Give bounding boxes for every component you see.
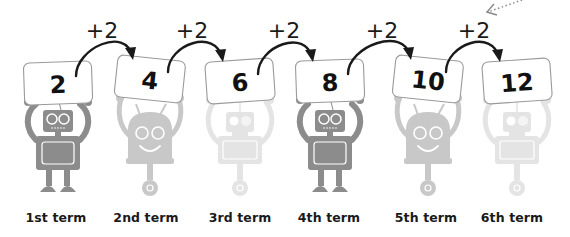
term-label: 4th term: [284, 210, 374, 225]
term-value: 12: [481, 67, 553, 100]
round-wheel-robot-illustration: [116, 94, 184, 196]
term-value: 8: [295, 68, 366, 98]
square-wheel-robot-illustration: [483, 96, 551, 196]
term-label: 1st term: [11, 210, 101, 225]
square-wheel-robot-illustration: [206, 96, 274, 196]
dotted-arrow-icon: [487, 0, 522, 15]
term-value: 6: [204, 67, 276, 100]
step-label: +2: [259, 18, 309, 43]
legged-robot-illustration: [296, 96, 364, 192]
step-label: +2: [357, 18, 407, 43]
term-label: 3rd term: [195, 210, 285, 225]
round-wheel-robot-illustration: [394, 94, 462, 196]
term-label: 6th term: [467, 210, 557, 225]
term-label: 5th term: [381, 210, 471, 225]
step-label: +2: [77, 18, 127, 43]
term-value: 2: [23, 70, 94, 100]
term-label: 2nd term: [101, 210, 191, 225]
step-label: +2: [167, 18, 217, 43]
legged-robot-illustration: [24, 98, 92, 192]
step-label: +2: [449, 18, 499, 43]
